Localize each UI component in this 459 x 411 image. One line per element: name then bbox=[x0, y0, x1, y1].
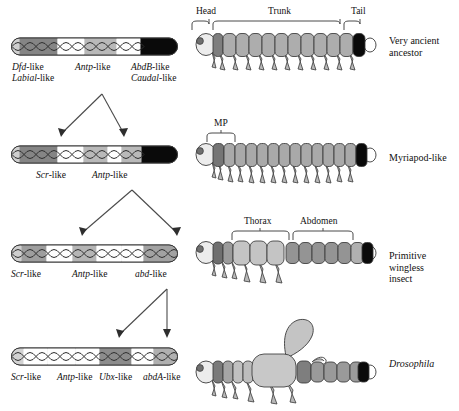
gene-label-dfd-like-text: Dfd-like bbox=[12, 62, 44, 72]
organism-label-primitive-insect: Primitive wingless insect bbox=[389, 250, 426, 285]
organism-body-drosophila bbox=[190, 318, 385, 408]
organism-label-drosophila: Drosophila bbox=[389, 358, 434, 370]
gene-label-dfd-like: Dfd-like bbox=[12, 62, 44, 73]
gene-label-scr-like-r2: Scr-like bbox=[36, 170, 66, 181]
region-label-abdomen: Abdomen bbox=[300, 216, 337, 226]
gene-label-antp-dash-r4-text: Antp-like bbox=[57, 372, 92, 382]
gene-label-antp-like-r2-text: Antp-like bbox=[92, 170, 127, 180]
gene-label-abd-like-text: abd-like bbox=[135, 269, 167, 279]
gene-label-antp-like-r1: Antp-like bbox=[75, 62, 110, 73]
gene-label-labial-like: Labial-like bbox=[12, 73, 54, 84]
gene-label-antp-dash-r4: Antp-like bbox=[57, 372, 92, 383]
hox-cluster-bar-primitive-insect bbox=[10, 241, 182, 267]
gene-label-abda-dash-text: abdA-like bbox=[143, 372, 180, 382]
gene-label-antp-like-r2: Antp-like bbox=[92, 170, 127, 181]
region-label-mp: MP bbox=[214, 118, 228, 128]
gene-label-ubx-dash: Ubx-like bbox=[99, 372, 132, 383]
organism-body-myriapod bbox=[190, 140, 385, 195]
gene-label-abdb-like-text: AbdB-like bbox=[131, 62, 170, 72]
gene-label-abda-dash: abdA-like bbox=[143, 372, 180, 383]
gene-label-antp-like-r1-text: Antp-like bbox=[75, 62, 110, 72]
gene-label-scr-like-r2-text: Scr-like bbox=[36, 170, 66, 180]
organism-label-ancestor: Very ancient ancestor bbox=[389, 35, 439, 58]
figure-canvas: Dfd-like Labial-like Antp-like AbdB-like… bbox=[0, 0, 459, 411]
gene-label-labial-like-text: Labial-like bbox=[12, 73, 54, 83]
gene-label-abdb-like: AbdB-like bbox=[131, 62, 170, 73]
region-label-thorax: Thorax bbox=[244, 216, 271, 226]
gene-label-scr-like-r4: Scr-like bbox=[11, 372, 41, 383]
gene-label-antp-like-r3: Antp-like bbox=[72, 269, 107, 280]
region-label-trunk: Trunk bbox=[268, 6, 291, 16]
gene-label-caudal-like: Caudal-like bbox=[131, 73, 176, 84]
gene-label-antp-like-r3-text: Antp-like bbox=[72, 269, 107, 279]
gene-label-scr-like-r3: Scr-like bbox=[11, 269, 41, 280]
organism-body-primitive-insect bbox=[190, 238, 385, 293]
hox-cluster-bar-myriapod bbox=[10, 142, 182, 168]
lineage-arrows-2 bbox=[65, 188, 195, 240]
gene-label-scr-like-r4-text: Scr-like bbox=[11, 372, 41, 382]
gene-label-scr-like-r3-text: Scr-like bbox=[11, 269, 41, 279]
gene-label-abd-like: abd-like bbox=[135, 269, 167, 280]
lineage-arrows-1 bbox=[45, 92, 165, 142]
gene-label-caudal-like-text: Caudal-like bbox=[131, 73, 176, 83]
hox-cluster-bar-ancestor bbox=[10, 34, 182, 60]
organism-body-ancestor bbox=[190, 30, 385, 82]
organism-label-myriapod: Myriapod-like bbox=[389, 152, 447, 164]
region-label-tail: Tail bbox=[351, 6, 366, 16]
hox-cluster-bar-drosophila bbox=[10, 344, 182, 370]
region-label-head: Head bbox=[196, 6, 216, 16]
gene-label-ubx-dash-text: Ubx-like bbox=[99, 372, 132, 382]
